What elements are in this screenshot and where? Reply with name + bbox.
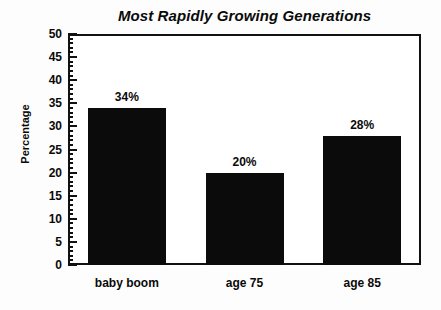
- y-tick-minor: [68, 227, 73, 229]
- y-tick-minor: [68, 98, 73, 100]
- y-tick-minor: [68, 84, 73, 86]
- y-tick-minor: [68, 116, 73, 118]
- y-tick-minor: [68, 204, 73, 206]
- y-tick-minor: [68, 162, 73, 164]
- y-tick-major: [68, 195, 77, 197]
- y-tick-label: 30: [10, 120, 62, 132]
- bar-value-label: 20%: [205, 155, 285, 169]
- y-tick-minor: [68, 42, 73, 44]
- y-tick-minor: [68, 259, 73, 261]
- y-tick-minor: [68, 167, 73, 169]
- y-tick-label: 15: [10, 190, 62, 202]
- y-tick-major: [68, 56, 77, 58]
- y-tick-minor: [68, 236, 73, 238]
- y-tick-label: 20: [10, 167, 62, 179]
- y-tick-minor: [68, 232, 73, 234]
- y-tick-major: [68, 241, 77, 243]
- y-tick-label: 45: [10, 51, 62, 63]
- y-tick-minor: [68, 88, 73, 90]
- y-tick-major: [68, 125, 77, 127]
- y-tick-minor: [68, 130, 73, 132]
- y-tick-minor: [68, 158, 73, 160]
- y-tick-minor: [68, 93, 73, 95]
- bar: [323, 136, 401, 265]
- y-tick-minor: [68, 75, 73, 77]
- y-tick-minor: [68, 209, 73, 211]
- y-tick-minor: [68, 112, 73, 114]
- y-tick-minor: [68, 107, 73, 109]
- y-tick-major: [68, 264, 77, 266]
- y-tick-label: 10: [10, 213, 62, 225]
- y-tick-minor: [68, 70, 73, 72]
- y-tick-minor: [68, 222, 73, 224]
- y-tick-minor: [68, 176, 73, 178]
- bar-value-label: 34%: [87, 90, 167, 104]
- y-tick-label: 5: [10, 236, 62, 248]
- x-category-label: age 75: [185, 276, 305, 290]
- y-tick-minor: [68, 153, 73, 155]
- y-tick-minor: [68, 47, 73, 49]
- y-tick-major: [68, 218, 77, 220]
- chart-page: Most Rapidly Growing Generations Percent…: [0, 0, 441, 310]
- y-tick-major: [68, 33, 77, 35]
- y-tick-major: [68, 172, 77, 174]
- y-tick-minor: [68, 181, 73, 183]
- bar: [206, 173, 284, 265]
- y-tick-minor: [68, 255, 73, 257]
- y-tick-minor: [68, 190, 73, 192]
- y-tick-minor: [68, 139, 73, 141]
- y-tick-major: [68, 79, 77, 81]
- y-tick-minor: [68, 65, 73, 67]
- y-tick-label: 0: [10, 259, 62, 271]
- bar: [88, 108, 166, 265]
- y-tick-minor: [68, 38, 73, 40]
- x-category-label: baby boom: [67, 276, 187, 290]
- bar-value-label: 28%: [322, 118, 402, 132]
- y-tick-minor: [68, 61, 73, 63]
- plot-area: [68, 34, 421, 265]
- y-tick-minor: [68, 144, 73, 146]
- y-tick-major: [68, 102, 77, 104]
- y-tick-major: [68, 149, 77, 151]
- chart-title: Most Rapidly Growing Generations: [68, 7, 421, 24]
- y-tick-minor: [68, 121, 73, 123]
- y-tick-minor: [68, 185, 73, 187]
- y-tick-label: 35: [10, 97, 62, 109]
- y-tick-minor: [68, 51, 73, 53]
- y-tick-minor: [68, 199, 73, 201]
- y-tick-minor: [68, 213, 73, 215]
- y-tick-label: 25: [10, 144, 62, 156]
- y-tick-label: 50: [10, 28, 62, 40]
- y-tick-label: 40: [10, 74, 62, 86]
- y-tick-minor: [68, 246, 73, 248]
- y-tick-minor: [68, 135, 73, 137]
- x-category-label: age 85: [302, 276, 422, 290]
- y-tick-minor: [68, 250, 73, 252]
